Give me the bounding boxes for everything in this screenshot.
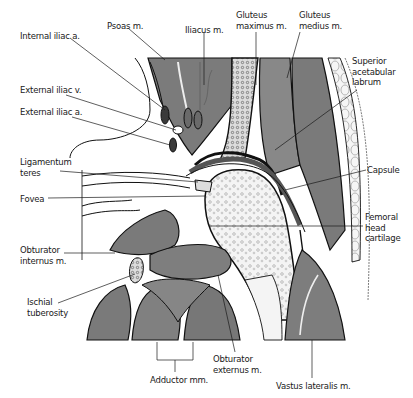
adductor-muscles [87, 279, 240, 340]
pelvic-tissue-4 [82, 210, 140, 216]
ischial-tuberosity-bone [130, 258, 144, 283]
label-obturator-externus-m: Obturator externus m. [213, 354, 262, 375]
label-vastus-lateralis-m: Vastus lateralis m. [276, 381, 351, 392]
label-gluteus-medius-m: Gluteus medius m. [299, 10, 342, 31]
label-superior-acetabular-labrum: Superior acetabular labrum [352, 56, 396, 88]
pelvic-tissue-3 [82, 200, 132, 206]
femur-shaft [245, 275, 282, 340]
label-psoas-m: Psoas m. [107, 21, 143, 32]
label-adductor-mm: Adductor mm. [150, 375, 208, 386]
label-fovea: Fovea [20, 194, 44, 205]
label-capsule: Capsule [367, 165, 400, 176]
label-iliacus-m: Iliacus m. [185, 25, 224, 36]
label-internal-iliac-a: Internal iliac a. [20, 31, 80, 42]
label-ischial-tuberosity: Ischial tuberosity [27, 297, 68, 318]
label-external-iliac-v: External iliac v. [20, 85, 81, 96]
label-obturator-internus-m: Obturator internus m. [20, 245, 66, 266]
label-ligamentum-teres: Ligamentum teres [20, 157, 72, 178]
vastus-lateralis-muscle [285, 250, 345, 340]
vessel-small-2 [194, 111, 202, 129]
internal-iliac-artery [161, 106, 169, 124]
pelvic-tissue-2 [82, 182, 190, 188]
obturator-externus-muscle [150, 245, 231, 280]
label-femoral-head-cartilage: Femoral head cartilage [365, 212, 400, 244]
label-gluteus-maximus-m: Gluteus maximus m. [236, 10, 287, 31]
external-iliac-vein [173, 126, 183, 134]
hip-joint-diagram: Internal iliac a. Psoas m. Iliacus m. Gl… [0, 0, 413, 398]
vessel-small-1 [184, 108, 192, 128]
external-iliac-artery [170, 138, 177, 152]
label-external-iliac-a: External iliac a. [20, 107, 82, 118]
